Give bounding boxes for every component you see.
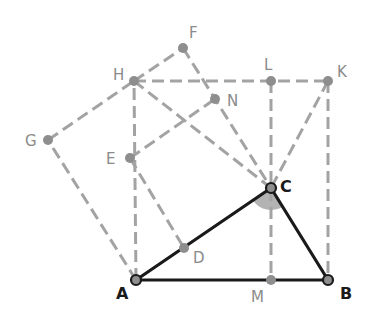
point-l bbox=[266, 76, 276, 86]
triangle-vertices bbox=[131, 183, 333, 285]
label-m: M bbox=[251, 288, 264, 306]
point-e bbox=[125, 153, 135, 163]
label-b: B bbox=[340, 284, 352, 303]
segment-e-d bbox=[130, 158, 184, 248]
point-a bbox=[131, 275, 141, 285]
point-d bbox=[179, 243, 189, 253]
geometry-diagram: A B C D E F G H K L M N bbox=[0, 0, 372, 320]
label-h: H bbox=[113, 66, 124, 84]
label-e: E bbox=[106, 150, 115, 168]
construction-points bbox=[43, 43, 333, 285]
label-d: D bbox=[193, 249, 205, 267]
point-h bbox=[129, 76, 139, 86]
point-k bbox=[323, 76, 333, 86]
segment-e-n bbox=[130, 99, 215, 158]
label-a: A bbox=[116, 284, 129, 303]
point-b bbox=[323, 275, 333, 285]
label-n: N bbox=[227, 92, 238, 110]
segment-f-c bbox=[183, 48, 271, 188]
segment-h-c bbox=[134, 81, 271, 188]
segment-g-h bbox=[48, 81, 134, 140]
segment-a-g bbox=[48, 140, 136, 280]
segment-b-c bbox=[271, 188, 328, 280]
segment-a-h bbox=[134, 81, 136, 280]
point-labels: A B C D E F G H K L M N bbox=[25, 24, 352, 306]
segment-h-f bbox=[134, 48, 183, 81]
point-c bbox=[266, 183, 276, 193]
label-f: F bbox=[189, 24, 198, 42]
segment-k-c bbox=[271, 81, 328, 188]
point-f bbox=[178, 43, 188, 53]
label-g: G bbox=[25, 132, 37, 150]
point-n bbox=[210, 94, 220, 104]
label-c: C bbox=[280, 177, 292, 196]
triangle-abc bbox=[136, 188, 328, 280]
label-k: K bbox=[337, 63, 348, 81]
point-g bbox=[43, 135, 53, 145]
label-l: L bbox=[264, 56, 273, 74]
point-m bbox=[266, 275, 276, 285]
